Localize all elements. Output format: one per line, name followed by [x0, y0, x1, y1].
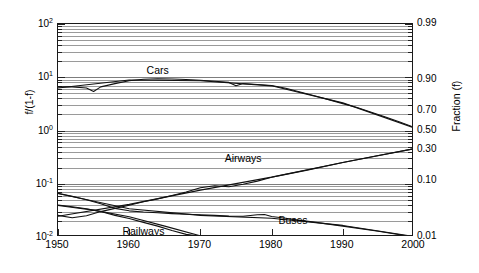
x-axis-tick-label: 2000	[401, 239, 424, 250]
y-axis-right-tick-label: 0.90	[417, 74, 436, 84]
chart-root: 10210110010-110-2 f/(1-f) CarsAirwaysBus…	[0, 0, 479, 273]
plot-area: CarsAirwaysBusesRailways	[57, 23, 413, 236]
y-axis-left-tick-label: 100	[38, 123, 53, 135]
y-axis-right-tick-label: 0.99	[417, 18, 436, 28]
y-axis-right-tick-label: 0.30	[417, 144, 436, 154]
x-axis-tick-label: 1970	[188, 239, 211, 250]
series-line	[58, 80, 413, 128]
x-axis-tick-label: 1990	[330, 239, 353, 250]
y-axis-left-tick-label: 102	[38, 17, 53, 29]
y-axis-right-tick-label: 0.10	[417, 175, 436, 185]
y-axis-left-tick-label: 101	[38, 70, 53, 82]
x-axis-tick-label: 1950	[45, 239, 68, 250]
x-axis-labels: 195019601970198019902000	[57, 239, 413, 257]
y-axis-right-title: Fraction (f)	[450, 58, 462, 154]
x-axis-tick-label: 1960	[117, 239, 140, 250]
y-axis-left-title: f/(1-f)	[23, 57, 35, 147]
railways-label: Railways	[122, 226, 164, 236]
cars-label: Cars	[147, 65, 169, 76]
y-axis-right-tick-label: 0.70	[417, 105, 436, 115]
series-line	[58, 79, 413, 128]
x-axis-tick-label: 1980	[259, 239, 282, 250]
buses-label: Buses	[278, 215, 307, 226]
airways-label: Airways	[225, 153, 262, 164]
y-axis-right-tick-label: 0.50	[417, 125, 436, 135]
data-curves	[58, 24, 413, 236]
y-axis-left-tick-label: 10-1	[36, 177, 53, 189]
